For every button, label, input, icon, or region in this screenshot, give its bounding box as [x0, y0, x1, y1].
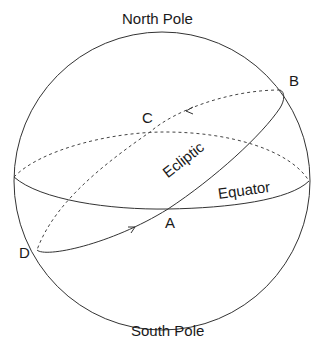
north-pole-label: North Pole	[122, 11, 193, 26]
point-a-label: A	[165, 215, 175, 230]
direction-arrow-back-icon	[186, 107, 193, 114]
ecliptic-back	[37, 90, 280, 250]
point-c-label: C	[142, 110, 153, 125]
point-b-label: B	[289, 73, 299, 88]
celestial-sphere-diagram	[0, 0, 313, 345]
equator-back	[14, 132, 309, 181]
south-pole-label: South Pole	[131, 323, 204, 338]
point-d-label: D	[19, 245, 30, 260]
ecliptic-front	[37, 90, 284, 252]
